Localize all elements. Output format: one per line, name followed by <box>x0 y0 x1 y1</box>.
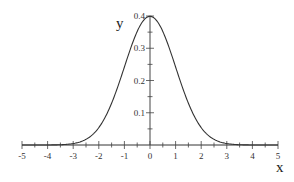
y-axis-label: y <box>116 15 124 31</box>
x-tick-label: -1 <box>121 151 129 161</box>
x-tick-label: 1 <box>173 151 178 161</box>
x-tick-label: 3 <box>225 151 230 161</box>
x-tick-label: -2 <box>95 151 103 161</box>
x-axis-label: x <box>276 159 284 175</box>
y-tick-label: 0.3 <box>134 43 146 53</box>
x-tick-label: -3 <box>69 151 77 161</box>
x-tick-label: -5 <box>18 151 26 161</box>
x-tick-label: 2 <box>199 151 204 161</box>
x-tick-label: 4 <box>250 151 255 161</box>
x-tick-label: -4 <box>44 151 52 161</box>
y-tick-label: 0.2 <box>134 76 145 86</box>
y-tick-label: 0.1 <box>134 108 145 118</box>
x-tick-label: 0 <box>148 151 153 161</box>
normal-distribution-chart: -5-4-3-2-1012345 0.10.20.30.4 x y <box>0 0 294 182</box>
